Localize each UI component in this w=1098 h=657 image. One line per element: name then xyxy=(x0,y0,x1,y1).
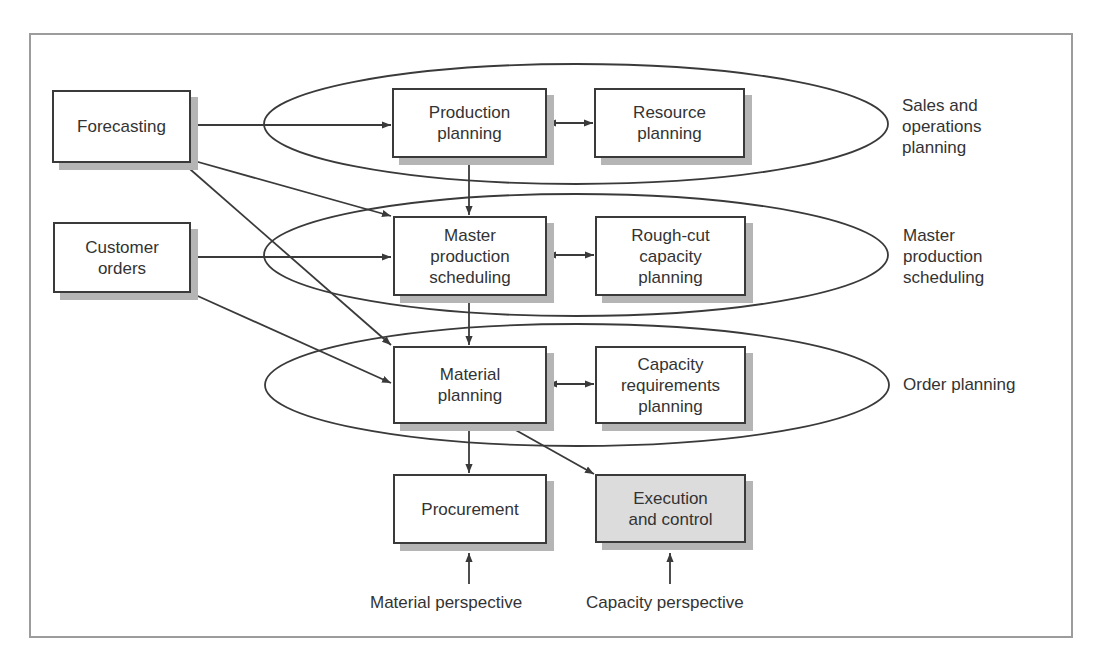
node-capacity-requirements-planning: Capacity requirements planning xyxy=(595,346,746,424)
node-mps-label: Master production scheduling xyxy=(429,225,510,288)
node-production-planning: Production planning xyxy=(392,88,547,158)
node-rough-cut-capacity-planning: Rough-cut capacity planning xyxy=(595,216,746,296)
node-master-production-scheduling: Master production scheduling xyxy=(393,216,547,296)
level-label-master-production-scheduling: Master production scheduling xyxy=(903,225,984,288)
node-customer-orders: Customer orders xyxy=(53,222,191,293)
arrow-forecasting-to-mps xyxy=(191,160,391,216)
ellipse-sales-operations-planning xyxy=(264,64,888,184)
perspective-label-capacity: Capacity perspective xyxy=(586,592,744,613)
node-execution-and-control: Execution and control xyxy=(595,474,746,543)
node-customer-orders-label: Customer orders xyxy=(85,237,159,279)
level-label-order-planning: Order planning xyxy=(903,374,1015,395)
arrow-customer-orders-to-material-planning xyxy=(191,293,391,383)
node-crp-label: Capacity requirements planning xyxy=(621,354,720,417)
ellipse-order-planning xyxy=(265,324,889,446)
node-rough-cut-label: Rough-cut capacity planning xyxy=(631,225,709,288)
node-procurement-label: Procurement xyxy=(421,499,518,520)
node-procurement: Procurement xyxy=(393,474,547,544)
node-forecasting: Forecasting xyxy=(52,90,191,163)
level-label-sales-operations-planning: Sales and operations planning xyxy=(902,95,981,158)
node-forecasting-label: Forecasting xyxy=(77,116,166,137)
perspective-label-material: Material perspective xyxy=(370,592,522,613)
arrow-material-planning-to-execution xyxy=(505,424,594,474)
arrow-forecasting-to-material-planning xyxy=(183,163,391,345)
node-resource-planning: Resource planning xyxy=(594,88,745,158)
node-production-planning-label: Production planning xyxy=(429,102,510,144)
node-material-planning: Material planning xyxy=(393,346,547,424)
node-execution-label: Execution and control xyxy=(628,488,712,530)
node-material-planning-label: Material planning xyxy=(438,364,502,406)
node-resource-planning-label: Resource planning xyxy=(633,102,706,144)
